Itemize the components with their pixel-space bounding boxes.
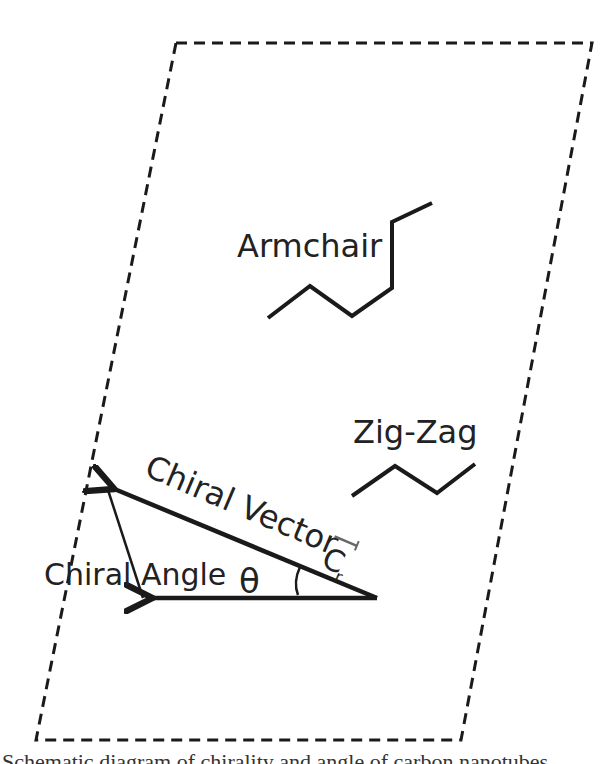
armchair-label: Armchair: [237, 227, 383, 265]
figure-caption: Schematic diagram of chirality and angle…: [0, 748, 616, 764]
unit-cell-outline: [36, 43, 592, 740]
chiral-vector-label: Chiral Vector: [140, 447, 345, 563]
chiral-angle-arc: [296, 567, 300, 595]
zigzag-label: Zig-Zag: [353, 413, 478, 451]
chirality-diagram: Armchair Zig-Zag Chiral Vector C r Chira…: [0, 0, 616, 764]
zigzag-edge: [352, 464, 475, 496]
theta-symbol: θ: [239, 561, 260, 601]
chiral-angle-label: Chiral Angle: [44, 557, 226, 592]
